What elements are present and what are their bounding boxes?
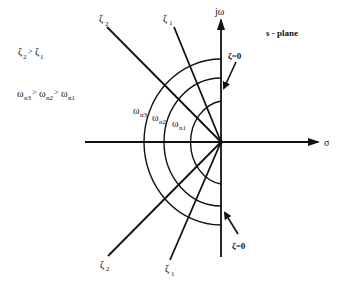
svg-text:n2: n2 [46,94,54,102]
svg-text:ζ: ζ [100,259,104,271]
svg-text:n1: n1 [179,124,187,132]
zeta-zero-lower-label: ζ=0 [232,241,246,251]
svg-text:ω: ω [133,105,140,116]
svg-text:2: 2 [106,265,110,273]
svg-text:ζ: ζ [163,13,167,25]
svg-text:ω: ω [61,88,68,99]
svg-text:n3: n3 [24,94,32,102]
svg-text:ζ: ζ [18,46,22,58]
svg-text:n3: n3 [140,111,148,119]
svg-text:ζ: ζ [35,46,39,58]
svg-text:>: > [54,88,59,97]
svg-text:n1: n1 [68,94,76,102]
svg-text:2: 2 [105,20,109,28]
svg-text:ω: ω [17,88,24,99]
svg-text:1: 1 [40,53,44,61]
svg-text:ω: ω [152,112,159,123]
jw-axis-label: jω [214,6,225,17]
s-plane-diagram: jω σ s - plane ζ=0 ζ=0 ζ 2 ζ 1 ζ 2 ζ 1 ω… [0,0,338,290]
omega-n1-label: ω n1 [172,118,187,132]
svg-text:n2: n2 [159,118,167,126]
zeta-zero-lower-arrow [225,213,238,234]
zeta-zero-upper-arrow [224,62,236,88]
zeta-1-lower-label: ζ 1 [165,263,175,278]
zeta-2-lower-label: ζ 2 [100,259,110,273]
sigma-axis-label: σ [324,137,330,148]
svg-text:ζ: ζ [99,13,103,25]
zeta-1-lower-line [170,142,221,260]
omega-n3-label: ω n3 [133,105,148,119]
svg-text:1: 1 [169,19,173,27]
svg-text:ω: ω [39,88,46,99]
svg-text:1: 1 [171,270,175,278]
s-plane-title: s - plane [266,28,298,38]
svg-text:ζ: ζ [165,263,169,275]
svg-text:2: 2 [23,53,27,61]
omega-relation-legend: ω n3 > ω n2 > ω n1 [17,88,76,102]
zeta-2-upper-label: ζ 2 [99,13,109,28]
origin-point [219,140,223,144]
omega-n2-label: ω n2 [152,112,167,126]
zeta-2-lower-line [108,142,221,256]
svg-text:ω: ω [172,118,179,129]
zeta-relation-legend: ζ 2 > ζ 1 [18,46,44,61]
svg-text:>: > [28,47,33,56]
zeta-1-upper-label: ζ 1 [163,13,173,27]
svg-text:>: > [32,88,37,97]
zeta-zero-upper-label: ζ=0 [228,51,242,61]
